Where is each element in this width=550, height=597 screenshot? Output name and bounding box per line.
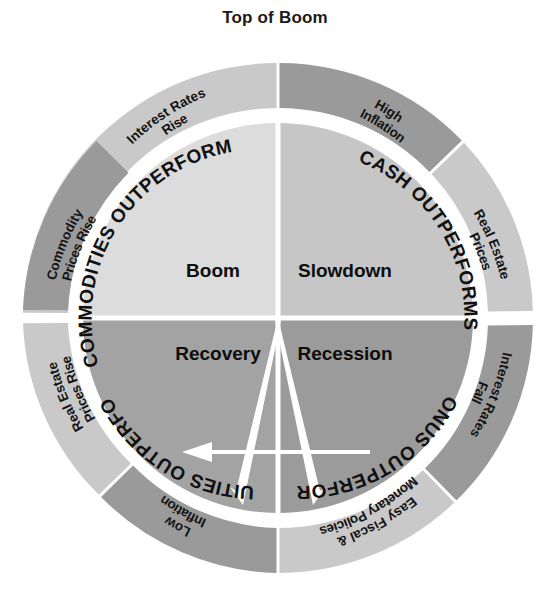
phase-label-boom: Boom [186, 260, 240, 281]
cycle-wheel: Interest Rates Rise High Inflation [0, 0, 550, 597]
phase-label-slowdown: Slowdown [298, 260, 392, 281]
phase-label-recession: Recession [297, 343, 392, 364]
business-cycle-diagram: Top of Boom [0, 0, 550, 597]
phase-label-recovery: Recovery [175, 343, 261, 364]
